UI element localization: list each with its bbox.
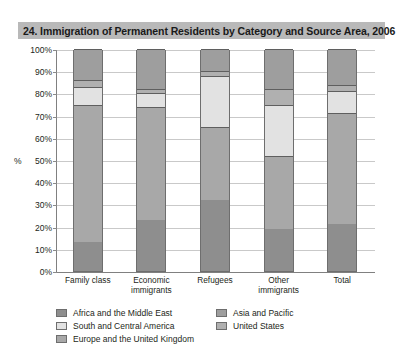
legend-row: Europe and the United Kingdom xyxy=(56,332,386,345)
stacked-bar[interactable] xyxy=(200,50,230,272)
legend-row: South and Central America United States xyxy=(56,319,386,332)
legend-row: Africa and the Middle East Asia and Paci… xyxy=(56,306,386,319)
x-axis-tick-label: Family class xyxy=(56,275,120,285)
legend-item-africa-middle-east: Africa and the Middle East xyxy=(56,308,216,318)
bar-group[interactable] xyxy=(200,50,230,272)
bar-segment[interactable] xyxy=(328,224,356,271)
y-axis-unit-label: % xyxy=(14,156,22,166)
page-title: 24. Immigration of Permanent Residents b… xyxy=(23,25,395,37)
bar-segment[interactable] xyxy=(74,80,102,87)
y-axis-tick-label: 100% xyxy=(18,45,52,55)
y-axis-tick-label: 90% xyxy=(18,67,52,77)
bar-segment[interactable] xyxy=(74,49,102,80)
bar-segment[interactable] xyxy=(137,89,165,93)
y-axis-tick-label: 20% xyxy=(18,223,52,233)
x-axis-tick-label: Refugees xyxy=(183,275,247,285)
legend-swatch-south-central-america xyxy=(56,322,67,330)
y-axis-tick-label: 10% xyxy=(18,245,52,255)
legend-label: United States xyxy=(233,321,284,331)
y-axis-tick-label: 40% xyxy=(18,178,52,188)
x-axis-tick-label: Economic immigrants xyxy=(120,275,184,295)
bar-segment[interactable] xyxy=(137,107,165,220)
y-axis-tick-label: 30% xyxy=(18,200,52,210)
legend-label: Africa and the Middle East xyxy=(73,308,172,318)
bar-group[interactable] xyxy=(264,50,294,272)
y-axis-tick-label: 50% xyxy=(18,156,52,166)
legend-label: Europe and the United Kingdom xyxy=(73,334,194,344)
bar-segment[interactable] xyxy=(74,87,102,105)
legend-item-europe-uk: Europe and the United Kingdom xyxy=(56,334,216,344)
bar-segment[interactable] xyxy=(137,93,165,106)
bar-segment[interactable] xyxy=(265,89,293,105)
chart-legend: Africa and the Middle East Asia and Paci… xyxy=(56,306,386,345)
bar-segment[interactable] xyxy=(265,105,293,156)
legend-label: Asia and Pacific xyxy=(233,308,293,318)
bar-segment[interactable] xyxy=(265,229,293,271)
stacked-bar[interactable] xyxy=(327,50,357,272)
stacked-bar[interactable] xyxy=(73,50,103,272)
bar-group[interactable] xyxy=(73,50,103,272)
bar-group[interactable] xyxy=(136,50,166,272)
bar-segment[interactable] xyxy=(201,49,229,71)
bar-segment[interactable] xyxy=(328,113,356,224)
bar-segment[interactable] xyxy=(201,127,229,200)
bar-segment[interactable] xyxy=(265,49,293,89)
x-axis-tick-label: Total xyxy=(310,275,374,285)
y-axis-tick-label: 0% xyxy=(18,267,52,277)
bars-container xyxy=(56,50,374,272)
legend-item-south-central-america: South and Central America xyxy=(56,321,216,331)
bar-segment[interactable] xyxy=(201,200,229,271)
stacked-bar[interactable] xyxy=(136,50,166,272)
legend-label: South and Central America xyxy=(73,321,175,331)
chart-title-bar: 24. Immigration of Permanent Residents b… xyxy=(18,22,385,39)
bar-segment[interactable] xyxy=(137,220,165,271)
bar-segment[interactable] xyxy=(328,85,356,92)
stacked-bar[interactable] xyxy=(264,50,294,272)
legend-item-asia-pacific: Asia and Pacific xyxy=(216,308,293,318)
bar-segment[interactable] xyxy=(201,71,229,75)
x-axis-tick-label: Other immigrants xyxy=(247,275,311,295)
bar-segment[interactable] xyxy=(137,49,165,89)
y-axis-tick-label: 70% xyxy=(18,112,52,122)
bar-segment[interactable] xyxy=(265,156,293,229)
legend-swatch-africa-middle-east xyxy=(56,309,67,317)
bar-segment[interactable] xyxy=(74,105,102,243)
bar-group[interactable] xyxy=(327,50,357,272)
legend-swatch-asia-pacific xyxy=(216,309,227,317)
y-axis-tick-label: 60% xyxy=(18,134,52,144)
y-axis-tick-label: 80% xyxy=(18,89,52,99)
y-axis-tick xyxy=(53,272,57,273)
bar-segment[interactable] xyxy=(328,49,356,85)
bar-segment[interactable] xyxy=(74,242,102,271)
x-axis-labels: Family classEconomic immigrantsRefugeesO… xyxy=(56,275,374,299)
legend-swatch-united-states xyxy=(216,322,227,330)
legend-swatch-europe-uk xyxy=(56,335,67,343)
bar-segment[interactable] xyxy=(328,91,356,113)
legend-item-united-states: United States xyxy=(216,321,284,331)
bar-segment[interactable] xyxy=(201,76,229,127)
